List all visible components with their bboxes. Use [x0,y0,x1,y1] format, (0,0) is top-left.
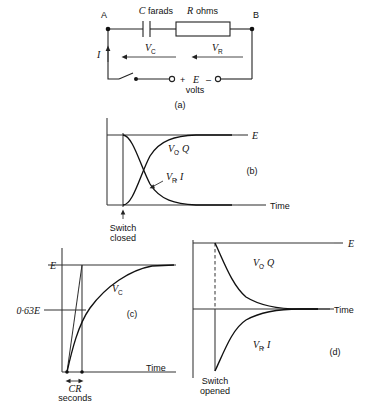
resistor-icon [176,22,230,36]
panel-b-event-line1: Switch [110,223,137,233]
current-label: I [96,49,101,60]
terminal-a-label: A [101,10,107,20]
source-terminal-positive [169,76,174,81]
panel-b-time-label: Time [270,201,290,211]
panel-c-cr-annotation: CR seconds [58,379,92,402]
panel-b-vr-annotation: V R , I [150,171,185,189]
panel-c-origin-marker [65,370,69,374]
panel-a-circuit: A B C farads R ohms I V C V R + E – volt… [96,5,259,110]
source-unit-label: volts [186,85,205,95]
terminal-b-label: B [253,10,259,20]
panel-b-vc-annotation: V C , Q [168,143,190,156]
source-minus-label: – [206,75,211,85]
switch-open-icon[interactable] [119,73,138,81]
panel-b-e-label: E [251,130,258,141]
panel-d-vc-curve [215,243,318,309]
panel-b-vc-extra: , Q [177,143,190,154]
source-symbol-label: E [192,74,199,85]
panel-d-id: (d) [330,347,341,357]
panel-d-e-label: E [347,238,354,249]
panel-b-vr-extra: , I [175,171,184,182]
panel-a-id: (a) [175,100,186,110]
panel-c-chart: E 0·63E Time V C CR seconds (c) [16,248,176,402]
resistor-symbol-label: R [186,5,193,16]
node-a [106,27,111,32]
panel-c-threshold-label: 0·63E [16,305,40,316]
figure-canvas: A B C farads R ohms I V C V R + E – volt… [0,0,368,402]
capacitor-icon [143,21,150,37]
panel-d-vr-extra: , I [262,339,271,350]
panel-c-vc-annotation: V C [112,283,123,296]
panel-c-tangent-line [67,265,82,372]
panel-d-event-line1: Switch [202,376,229,386]
resistor-unit-label: ohms [196,6,219,16]
rc-circuit-figure: A B C farads R ohms I V C V R + E – volt… [0,0,368,402]
panel-c-cr-unit: seconds [58,393,92,402]
panel-d-vc-extra: , Q [262,257,275,268]
vc-label-subscript: C [151,48,156,55]
vr-arrow-left-icon [192,55,244,60]
panel-c-e-label: E [49,260,56,271]
capacitor-unit-label: farads [148,6,174,16]
panel-b-id: (b) [247,166,258,176]
panel-b-event-line2: closed [110,233,136,243]
panel-c-id: (c) [127,309,138,319]
arrow-up-icon [106,46,111,63]
panel-d-time-label: Time [334,305,354,315]
panel-d-event-line2: opened [200,386,230,396]
panel-d-vc-annotation: V C , Q [253,257,275,270]
wire-bottom-left [108,73,119,79]
source-plus-label: + [180,75,185,85]
vr-label-subscript: R [218,48,223,55]
panel-c-time-label: Time [146,363,166,373]
vc-arrow-left-icon [122,55,177,60]
capacitor-symbol-label: C [139,5,146,16]
panel-d-chart: E Time V C , Q V R , I Switch opened (d) [193,238,354,396]
source-terminal-negative [215,76,220,81]
node-b [250,27,255,32]
panel-b-switch-annotation: Switch closed [110,210,137,244]
panel-c-cr-marker [80,370,84,374]
panel-c-vc-sub: C [118,289,123,296]
panel-c-vc-curve [67,265,174,372]
panel-b-chart: E Time V C , Q V R , I Switch closed (b) [107,118,290,243]
panel-d-vr-annotation: V R , I [253,339,271,352]
